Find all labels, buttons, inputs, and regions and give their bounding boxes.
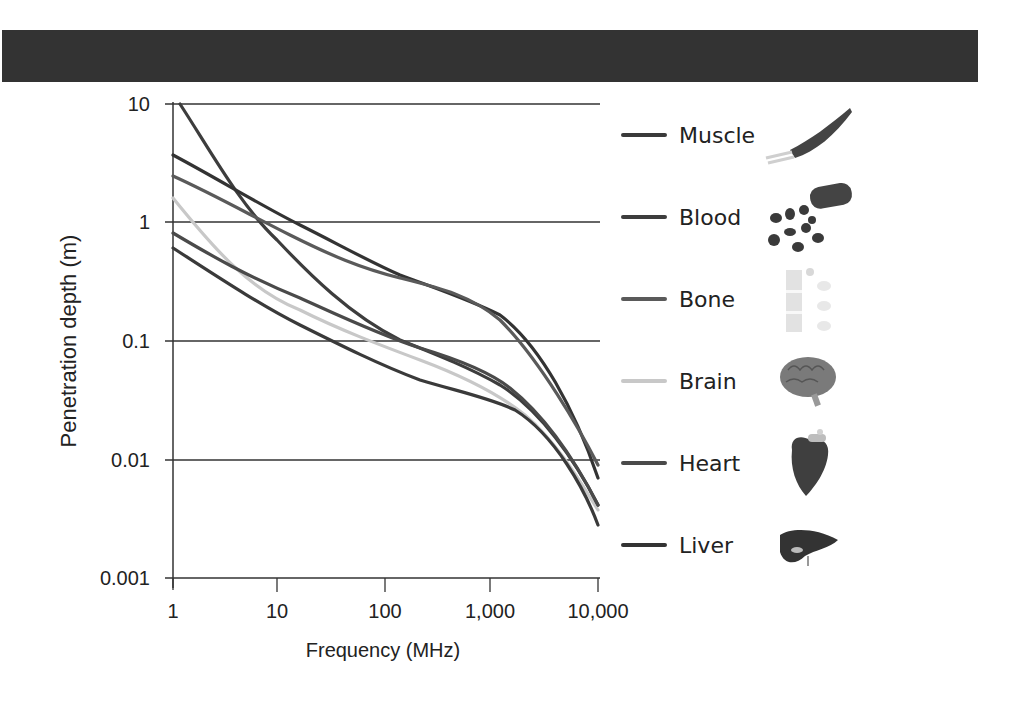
y-tick-0.001: 0.001 <box>100 567 150 589</box>
muscle-icon <box>766 108 852 163</box>
y-tick-0.01: 0.01 <box>111 449 150 471</box>
brain-icon <box>780 357 836 407</box>
svg-text:Brain: Brain <box>679 369 737 394</box>
spine-bone-icon <box>786 268 831 332</box>
legend-item-liver[interactable]: Liver <box>623 530 838 566</box>
svg-text:Bone: Bone <box>679 287 735 312</box>
y-tick-labels: 10 1 0.1 0.01 0.001 <box>100 93 150 589</box>
series-lines <box>173 104 598 525</box>
legend: Muscle Blood <box>623 108 854 566</box>
series-blood <box>180 104 598 505</box>
svg-text:Liver: Liver <box>679 533 734 558</box>
gridlines <box>165 104 600 578</box>
svg-text:Blood: Blood <box>679 205 741 230</box>
legend-item-blood[interactable]: Blood <box>623 181 854 252</box>
y-axis-title: Penetration depth (m) <box>56 235 81 448</box>
x-tick-10: 10 <box>266 600 288 622</box>
x-tick-1000: 1,000 <box>465 600 515 622</box>
y-tick-1: 1 <box>139 211 150 233</box>
legend-item-brain[interactable]: Brain <box>623 357 836 407</box>
svg-text:Muscle: Muscle <box>679 123 755 148</box>
x-tick-10000: 10,000 <box>567 600 628 622</box>
x-axis-title: Frequency (MHz) <box>306 639 460 661</box>
series-muscle <box>173 248 598 525</box>
legend-item-bone[interactable]: Bone <box>623 268 831 332</box>
legend-item-muscle[interactable]: Muscle <box>623 108 852 163</box>
svg-text:Heart: Heart <box>679 451 741 476</box>
legend-item-heart[interactable]: Heart <box>623 429 828 496</box>
x-tick-1: 1 <box>167 600 178 622</box>
series-liver <box>173 155 598 478</box>
y-tick-10: 10 <box>128 93 150 115</box>
x-tick-labels: 1 10 100 1,000 10,000 <box>167 600 628 622</box>
chart: 10 1 0.1 0.01 0.001 1 10 100 1,000 10,00… <box>0 0 1015 704</box>
liver-icon <box>780 530 838 566</box>
series-brain <box>173 198 598 510</box>
x-tick-100: 100 <box>368 600 401 622</box>
y-tick-0.1: 0.1 <box>122 330 150 352</box>
heart-icon <box>792 429 829 496</box>
x-ticks <box>173 578 598 592</box>
blood-cells-icon <box>768 181 854 252</box>
